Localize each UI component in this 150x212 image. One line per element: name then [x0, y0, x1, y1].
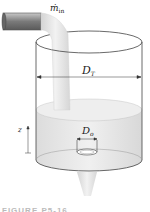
tank-diameter-label: DT [81, 64, 96, 77]
inflow-pipe [2, 13, 41, 30]
inflow-label: ṁin [50, 3, 64, 14]
height-indicator [25, 126, 31, 153]
tank-diagram: DT Do z ṁin [0, 0, 150, 212]
figure-caption: FIGURE P5-16 [2, 206, 68, 212]
inflow-stream [41, 13, 70, 110]
height-label: z [17, 126, 22, 134]
outlet-stream [77, 172, 97, 196]
